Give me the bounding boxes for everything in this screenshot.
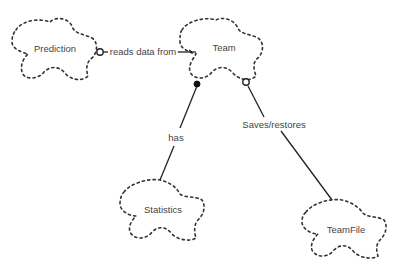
association-line-has-lower[interactable] [160,146,174,180]
open-circle-adornment-icon [97,49,103,55]
open-circle-adornment-icon [243,79,249,85]
association-line-has-upper[interactable] [180,86,197,128]
class-name-teamfile: TeamFile [327,224,366,235]
relationship-label-has: has [167,132,184,143]
relationship-label-saves-restores: Saves/restores [241,119,306,130]
class-name-team: Team [212,42,235,53]
class-name-statistics: Statistics [144,204,182,215]
association-line-saves-restores-upper[interactable] [248,86,264,117]
class-name-prediction: Prediction [34,43,76,54]
diagram-canvas: Prediction Team Statistics TeamFile read… [0,0,405,275]
filled-circle-adornment-icon [194,81,200,87]
relationship-label-reads-data-from: reads data from [109,46,178,57]
association-line-saves-restores-lower[interactable] [281,131,332,200]
